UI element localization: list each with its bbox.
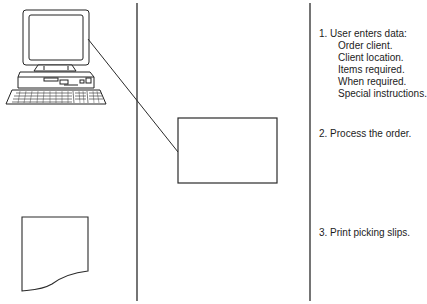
step-1-item-items-required: Items required. — [319, 64, 427, 76]
step-2: 2. Process the order. — [319, 128, 411, 140]
process-box — [178, 118, 277, 183]
step-1-item-special-instructions: Special instructions. — [319, 88, 427, 100]
step-3-label: 3. Print picking slips. — [319, 227, 410, 239]
step-1-label: 1. User enters data: — [319, 28, 427, 40]
step-1-item-order-client: Order client. — [319, 40, 427, 52]
step-3: 3. Print picking slips. — [319, 227, 410, 239]
step-1-item-when-required: When required. — [319, 76, 427, 88]
step-1-item-client-location: Client location. — [319, 52, 427, 64]
desktop-computer-icon — [6, 10, 106, 104]
step-2-label: 2. Process the order. — [319, 128, 411, 140]
printed-document-icon — [22, 217, 88, 291]
step-1: 1. User enters data: Order client. Clien… — [319, 28, 427, 100]
